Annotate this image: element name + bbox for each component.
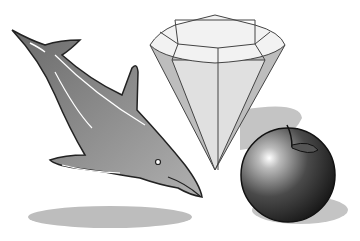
dolphin-eye xyxy=(156,160,161,165)
illustration xyxy=(0,0,360,241)
dolphin-shadow xyxy=(28,206,192,228)
